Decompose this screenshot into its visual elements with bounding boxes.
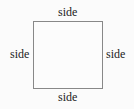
right-side-label: side xyxy=(106,48,125,60)
left-side-label: side xyxy=(10,48,29,60)
square-shape xyxy=(33,21,103,89)
top-side-label: side xyxy=(58,6,77,18)
bottom-side-label: side xyxy=(58,91,77,103)
